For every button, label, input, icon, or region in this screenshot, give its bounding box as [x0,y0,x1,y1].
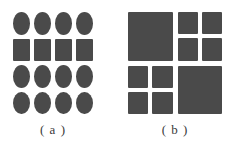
panel-a-caption: ( a ) [13,121,93,139]
quadtree-subleaf [128,66,148,88]
shape-circle [34,12,51,35]
shape-circle [76,12,93,35]
shape-circle [13,65,30,88]
panel-b-quadtree [128,12,222,114]
quadtree-split-bottom-left [128,66,173,115]
shape-circle [34,65,51,88]
quadtree-split-top-right [178,12,223,61]
quadtree-subleaf [152,92,172,114]
shape-square [34,39,51,62]
quadtree-leaf-top-left [128,12,173,61]
shape-circle [76,65,93,88]
figure-root: ( a ) ( b ) [0,0,238,149]
shape-circle [55,65,72,88]
shape-circle [13,12,30,35]
shape-square [55,39,72,62]
shape-circle [55,12,72,35]
panel-a-shape-lattice [13,12,93,114]
quadtree-leaf-bottom-right [178,66,223,115]
quadtree-subleaf [202,12,222,34]
shape-circle [13,92,30,115]
shape-square [13,39,30,62]
quadtree-subleaf [202,38,222,60]
shape-circle [55,92,72,115]
shape-circle [76,92,93,115]
shape-circle [34,92,51,115]
quadtree-subleaf [128,92,148,114]
quadtree-subleaf [178,38,198,60]
quadtree-subleaf [178,12,198,34]
quadtree-subleaf [152,66,172,88]
panel-b-caption: ( b ) [128,121,222,139]
shape-square [76,39,93,62]
